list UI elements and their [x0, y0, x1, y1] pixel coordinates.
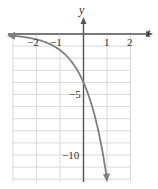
x-tick-label: −1 [50, 37, 62, 48]
x-tick-label: −2 [27, 37, 39, 48]
y-tick-label: −5 [69, 89, 81, 100]
y-axis-label: y [79, 4, 84, 16]
x-tick-label: 1 [104, 37, 110, 48]
y-tick-label: −10 [62, 150, 79, 161]
x-axis-label: t [147, 27, 150, 39]
x-tick-label: 2 [127, 37, 133, 48]
